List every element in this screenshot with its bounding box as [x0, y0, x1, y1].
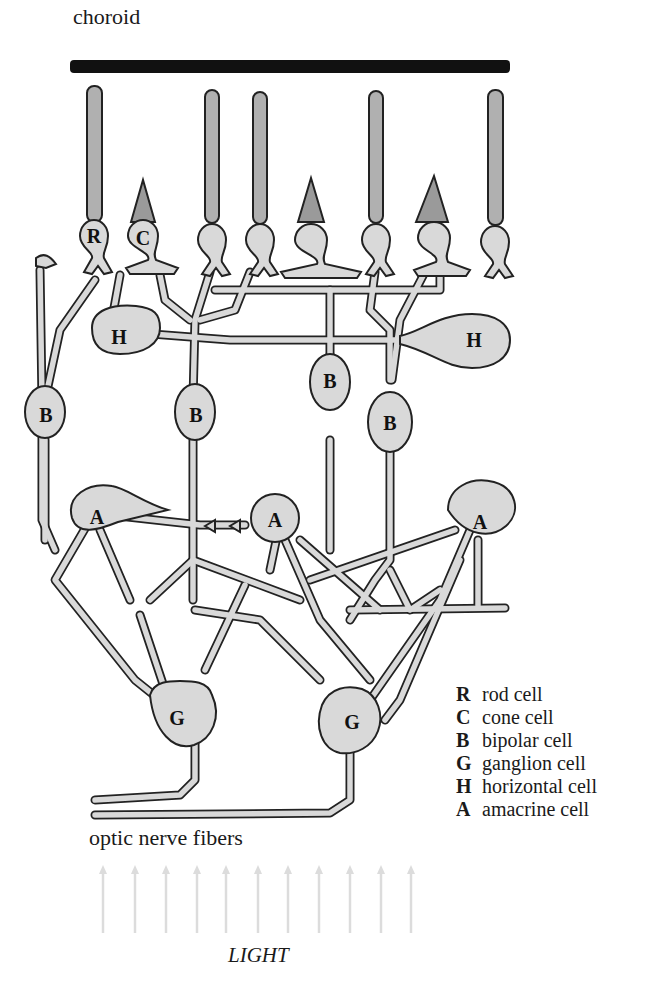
legend-item-bipolar: Bbipolar cell	[456, 729, 597, 752]
light-label: LIGHT	[228, 943, 289, 968]
bipolar-cells	[25, 354, 412, 452]
label-amacrine-3: A	[473, 511, 488, 533]
label-bipolar-2: B	[189, 404, 202, 426]
label-ganglion-1: G	[169, 707, 185, 729]
photoreceptor-outer-segments	[87, 86, 503, 225]
label-bipolar-4: B	[383, 412, 396, 434]
optic-nerve-label: optic nerve fibers	[89, 825, 243, 851]
legend: Rrod cell Ccone cell Bbipolar cell Ggang…	[456, 683, 597, 821]
legend-item-rod: Rrod cell	[456, 683, 597, 706]
label-horizontal-right: H	[466, 329, 482, 351]
label-rod: R	[87, 225, 102, 247]
legend-item-ganglion: Gganglion cell	[456, 752, 597, 775]
light-arrows	[99, 865, 415, 933]
label-bipolar-3: B	[323, 370, 336, 392]
label-amacrine-2: A	[268, 509, 283, 531]
label-horizontal-left: H	[111, 326, 127, 348]
horizontal-cell-right	[400, 314, 510, 368]
label-amacrine-1: A	[90, 506, 105, 528]
label-cone: C	[136, 227, 150, 249]
legend-item-cone: Ccone cell	[456, 706, 597, 729]
legend-item-amacrine: Aamacrine cell	[456, 798, 597, 821]
label-bipolar-1: B	[39, 404, 52, 426]
label-ganglion-2: G	[344, 711, 360, 733]
photoreceptor-bodies	[36, 220, 513, 278]
legend-item-horizontal: Hhorizontal cell	[456, 775, 597, 798]
choroid-layer	[70, 60, 510, 73]
